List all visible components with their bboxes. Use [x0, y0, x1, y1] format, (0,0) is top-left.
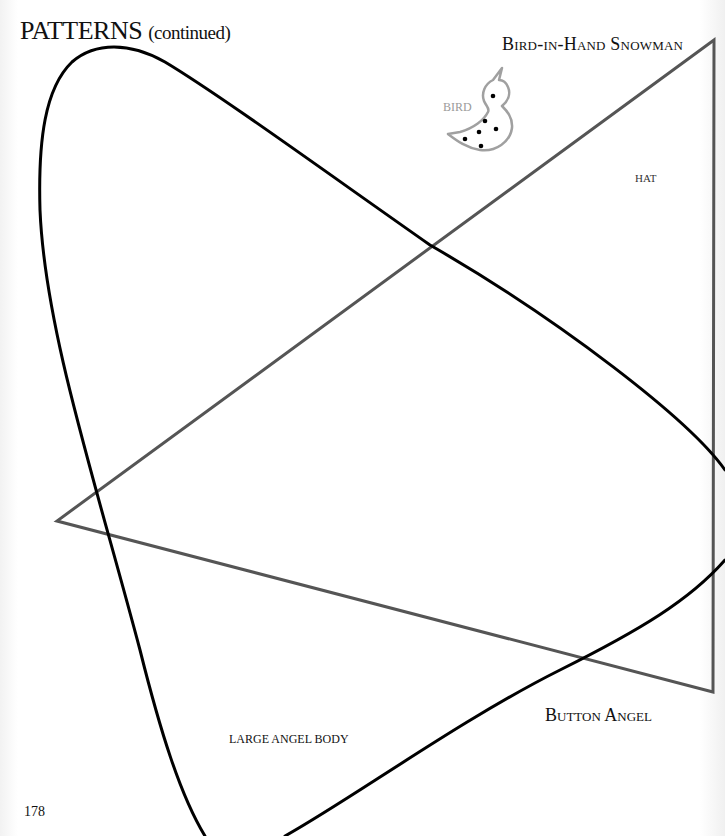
- hat-pattern-outline: [57, 40, 714, 692]
- bird-dot: [491, 94, 496, 99]
- bird-dot: [483, 119, 488, 124]
- snowman-title-label: Bird-in-Hand Snowman: [502, 34, 683, 55]
- bird-dot: [463, 137, 468, 142]
- bird-label: BIRD: [443, 100, 472, 115]
- page-number: 178: [24, 804, 45, 820]
- page-heading: Patterns(continued): [20, 16, 230, 46]
- heading-title: Patterns: [20, 16, 142, 45]
- bird-dot: [477, 130, 482, 135]
- button-angel-label: Button Angel: [545, 705, 652, 726]
- large-angel-body-label: LARGE ANGEL BODY: [229, 732, 349, 747]
- hat-label: HAT: [635, 172, 656, 184]
- bird-dot: [494, 127, 499, 132]
- bird-dot: [479, 144, 484, 149]
- heading-subtitle: (continued): [148, 22, 230, 43]
